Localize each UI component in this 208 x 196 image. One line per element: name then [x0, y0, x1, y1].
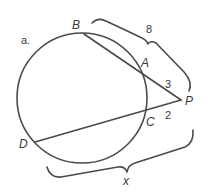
- measure-PC: 2: [165, 109, 171, 121]
- measure-PB: 8: [146, 23, 152, 35]
- point-label-C: C: [146, 115, 155, 129]
- measure-PA: 3: [165, 78, 171, 90]
- point-label-P: P: [185, 94, 193, 108]
- measure-PD: x: [122, 174, 130, 188]
- point-label-B: B: [72, 18, 80, 32]
- circle: [17, 33, 147, 163]
- secant-PB: [84, 34, 181, 100]
- point-label-D: D: [19, 137, 28, 151]
- brace-PD: [47, 130, 193, 177]
- secant-PD: [35, 100, 181, 142]
- part-label: a.: [21, 34, 30, 46]
- point-label-A: A: [140, 56, 149, 70]
- secant-secant-diagram: a. B A P C D 8 3 2 x: [0, 0, 208, 196]
